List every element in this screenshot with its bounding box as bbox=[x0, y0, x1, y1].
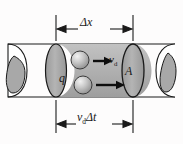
label-delta-x: Δx bbox=[80, 16, 92, 28]
label-area-A: A bbox=[125, 65, 132, 77]
label-charge-q: q bbox=[59, 72, 65, 84]
label-drift-velocity-sub: d bbox=[114, 60, 117, 67]
label-drift-velocity: vd bbox=[109, 54, 117, 68]
lower-charge bbox=[74, 76, 92, 94]
label-vd-delta-t: vdΔt bbox=[77, 111, 96, 126]
right-end-opening bbox=[156, 44, 176, 97]
dimension-line-delta-x bbox=[56, 15, 133, 41]
upper-charge bbox=[71, 51, 89, 69]
physics-figure: | ===== --> | ===== --> bbox=[0, 0, 183, 144]
label-vd-delta-t-rest: Δt bbox=[86, 110, 96, 124]
